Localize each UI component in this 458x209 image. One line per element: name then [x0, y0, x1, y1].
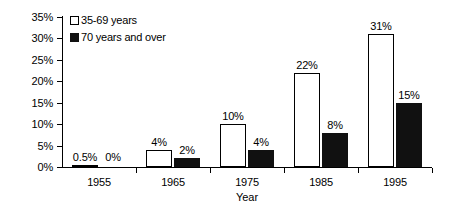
bar-value-label: 8% — [310, 120, 360, 131]
bar-value-label: 2% — [162, 145, 212, 156]
y-tick-label: 35% — [1, 12, 53, 23]
y-tick-label: 10% — [1, 119, 53, 130]
y-tick-label-wrap: 5% — [0, 141, 53, 152]
x-tick-mark — [136, 168, 137, 173]
bar-value-label: 22% — [282, 60, 332, 71]
y-tick-label-wrap: 25% — [0, 55, 53, 66]
y-tick-label-wrap: 20% — [0, 76, 53, 87]
x-axis-title: Year — [212, 191, 282, 203]
y-tick-label-wrap: 35% — [0, 12, 53, 23]
legend-swatch-dark-icon — [70, 33, 79, 42]
bar-1975-series1 — [248, 150, 274, 167]
bar-value-label: 10% — [208, 111, 258, 122]
bar-value-label: 4% — [236, 137, 286, 148]
bar-chart-figure: 0%5%10%15%20%25%30%35% 0.5%0%4%2%10%4%22… — [0, 0, 458, 209]
y-tick-label: 0% — [1, 162, 53, 173]
x-axis-line — [62, 167, 432, 168]
y-tick-mark — [57, 167, 62, 168]
x-tick-mark — [432, 168, 433, 173]
y-tick-label: 25% — [1, 55, 53, 66]
legend-item-35-69: 35-69 years — [70, 13, 166, 28]
x-tick-mark — [210, 168, 211, 173]
x-tick-label: 1955 — [64, 176, 134, 188]
x-tick-label: 1995 — [360, 176, 430, 188]
x-tick-label: 1965 — [138, 176, 208, 188]
bar-1965-series1 — [174, 158, 200, 167]
bar-1955-series0 — [72, 165, 98, 167]
bar-1985-series1 — [322, 133, 348, 167]
bar-value-label: 15% — [384, 90, 434, 101]
x-tick-label: 1975 — [212, 176, 282, 188]
y-tick-label-wrap: 15% — [0, 98, 53, 109]
y-tick-label-wrap: 30% — [0, 33, 53, 44]
bar-value-label: 0% — [88, 152, 138, 163]
legend-label: 70 years and over — [81, 32, 166, 43]
y-tick-label: 15% — [1, 98, 53, 109]
y-tick-label-wrap: 10% — [0, 119, 53, 130]
y-tick-label: 5% — [1, 141, 53, 152]
y-tick-label-wrap: 0% — [0, 162, 53, 173]
x-tick-mark — [358, 168, 359, 173]
legend-label: 35-69 years — [81, 15, 137, 26]
legend-swatch-light-icon — [70, 16, 79, 25]
y-tick-label: 30% — [1, 33, 53, 44]
bar-1995-series1 — [396, 103, 422, 167]
legend: 35-69 years 70 years and over — [70, 13, 166, 47]
legend-item-70-over: 70 years and over — [70, 30, 166, 45]
y-tick-label: 20% — [1, 76, 53, 87]
x-tick-label: 1985 — [286, 176, 356, 188]
bar-value-label: 31% — [356, 21, 406, 32]
x-tick-mark — [284, 168, 285, 173]
